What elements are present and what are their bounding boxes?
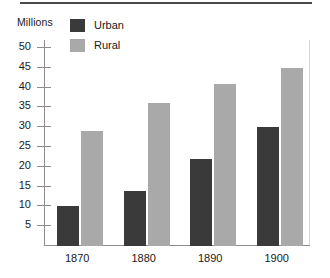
plot-area: 5101520253035404550 — [44, 40, 310, 246]
bar-rural-1900 — [281, 68, 303, 246]
y-axis-tick-label: 10 — [19, 198, 31, 211]
y-axis-tick: 40 — [37, 87, 51, 88]
y-axis-tick: 25 — [37, 146, 51, 147]
y-axis-tick-label: 15 — [19, 179, 31, 192]
plot-right-border — [309, 40, 310, 246]
y-axis-tick-label: 35 — [19, 99, 31, 112]
y-axis-tick: 20 — [37, 166, 51, 167]
y-axis-tick: 15 — [37, 186, 51, 187]
bar-chart-figure: Millions Urban Rural 5101520253035404550… — [0, 0, 330, 278]
bar-urban-1870 — [57, 206, 79, 246]
y-axis-tick-label: 20 — [19, 159, 31, 172]
y-axis-tick: 50 — [37, 47, 51, 48]
x-axis-label-1870: 1870 — [44, 252, 111, 265]
top-divider-rule — [20, 2, 312, 4]
y-axis-tick-label: 25 — [19, 139, 31, 152]
y-axis-tick: 10 — [37, 205, 51, 206]
bar-rural-1870 — [81, 131, 103, 246]
x-axis-label-1900: 1900 — [244, 252, 311, 265]
legend-label-urban: Urban — [94, 19, 124, 32]
y-axis-tick-label: 30 — [19, 119, 31, 132]
y-axis-tick: 35 — [37, 106, 51, 107]
x-axis-label-1880: 1880 — [111, 252, 178, 265]
bar-urban-1890 — [190, 159, 212, 246]
bar-urban-1880 — [124, 191, 146, 246]
x-axis-label-1890: 1890 — [177, 252, 244, 265]
y-axis-tick: 45 — [37, 67, 51, 68]
y-axis-tick-label: 45 — [19, 60, 31, 73]
bar-rural-1890 — [214, 84, 236, 246]
y-axis-tick-label: 5 — [25, 218, 31, 231]
bar-urban-1900 — [257, 127, 279, 246]
y-axis-tick: 5 — [37, 225, 51, 226]
y-axis-line — [44, 40, 45, 246]
y-axis-title: Millions — [17, 16, 53, 28]
y-axis-tick-label: 40 — [19, 80, 31, 93]
legend-swatch-urban — [70, 19, 85, 32]
y-axis-tick: 30 — [37, 126, 51, 127]
y-axis-tick-label: 50 — [19, 40, 31, 53]
bar-rural-1880 — [148, 103, 170, 246]
legend-item-urban: Urban — [70, 17, 124, 34]
